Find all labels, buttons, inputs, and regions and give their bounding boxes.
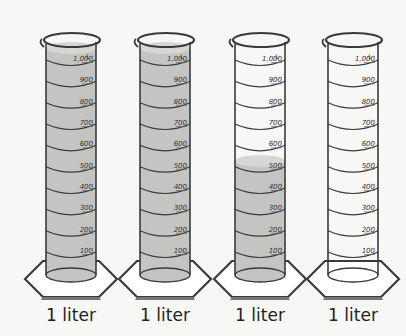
tick-label: 1,000	[167, 55, 188, 63]
graduated-cylinder-1: L1,000900800700600500400300200100	[25, 33, 117, 300]
tick-label: 600	[80, 140, 94, 148]
tick-label: 100	[362, 247, 376, 255]
tick-label: 400	[269, 183, 283, 191]
tick-label: 900	[362, 76, 376, 84]
tick-label: 600	[269, 140, 283, 148]
cylinder-4-label: 1 liter	[308, 305, 398, 325]
tick-label: 500	[269, 162, 283, 170]
tick-label: 700	[269, 119, 283, 127]
tick-label: 1,000	[73, 55, 94, 63]
tick-label: 200	[80, 226, 94, 234]
tick-label: 700	[174, 119, 188, 127]
tick-label: 100	[80, 247, 94, 255]
tick-label: 300	[362, 204, 376, 212]
tick-label: 700	[80, 119, 94, 127]
rim	[233, 33, 289, 47]
cylinder-3-label: 1 liter	[215, 305, 305, 325]
tick-label: 500	[174, 162, 188, 170]
tick-label: 1,000	[355, 55, 376, 63]
tick-label: 300	[80, 204, 94, 212]
tick-label: 400	[80, 183, 94, 191]
tick-label: 500	[80, 162, 94, 170]
tick-label: 200	[362, 226, 376, 234]
tick-label: 900	[80, 76, 94, 84]
tick-label: 300	[269, 204, 283, 212]
tick-label: 200	[174, 226, 188, 234]
hexagon-base-icon	[307, 261, 399, 297]
cylinder-1-label: 1 liter	[26, 305, 116, 325]
rim	[326, 33, 382, 47]
tick-label: 800	[362, 98, 376, 106]
cylinders-illustration: L1,000900800700600500400300200100L1,0009…	[0, 0, 406, 336]
tick-label: 700	[362, 119, 376, 127]
graduated-cylinder-3: L1,000900800700600500400300200100	[214, 33, 306, 300]
tick-label: 400	[174, 183, 188, 191]
tick-label: 300	[174, 204, 188, 212]
tick-label: 600	[362, 140, 376, 148]
graduated-cylinder-4: L1,000900800700600500400300200100	[307, 33, 399, 300]
cylinder-2-label: 1 liter	[120, 305, 210, 325]
tick-label: 1,000	[262, 55, 283, 63]
tick-label: 900	[269, 76, 283, 84]
figure-frame: L1,000900800700600500400300200100L1,0009…	[0, 0, 406, 336]
tick-label: 500	[362, 162, 376, 170]
tick-label: 900	[174, 76, 188, 84]
tick-label: 400	[362, 183, 376, 191]
graduated-cylinder-2: L1,000900800700600500400300200100	[119, 33, 211, 300]
tick-label: 100	[174, 247, 188, 255]
tick-label: 800	[80, 98, 94, 106]
liquid	[235, 161, 285, 282]
tick-label: 200	[269, 226, 283, 234]
tick-label: 800	[174, 98, 188, 106]
tick-label: 800	[269, 98, 283, 106]
tick-label: 100	[269, 247, 283, 255]
tick-label: 600	[174, 140, 188, 148]
